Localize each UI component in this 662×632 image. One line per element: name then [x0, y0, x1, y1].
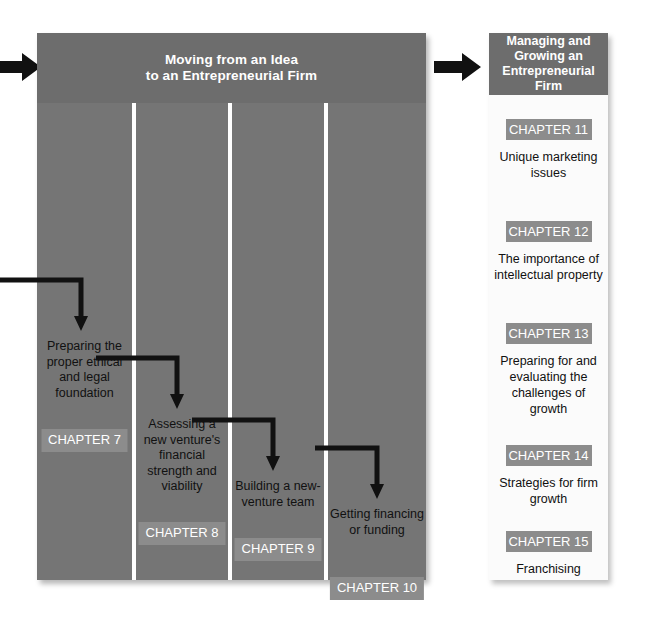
right-panel-item-13: CHAPTER 13 Preparing for and evaluating …: [489, 323, 608, 417]
right-panel-item-15: CHAPTER 15 Franchising: [489, 531, 608, 577]
arrow-right-icon-between: [434, 52, 482, 82]
column-3-chapter-badge: CHAPTER 9: [235, 538, 322, 561]
right-chapter-description-12: The importance of intellectual property: [493, 251, 605, 283]
column-chapter-10: Getting financing or funding CHAPTER 10: [328, 103, 426, 580]
arrow-right-icon-entry: [0, 52, 42, 82]
left-panel-title-line1: Moving from an Idea: [146, 52, 317, 68]
right-chapter-description-15: Franchising: [493, 561, 605, 577]
right-panel-managing-and-growing: Managing and Growing an Entrepreneurial …: [489, 33, 608, 580]
column-1-description: Preparing the proper ethical and legal f…: [37, 339, 132, 401]
elbow-arrow-icon-1: [0, 275, 110, 335]
left-panel-title-line2: to an Entrepreneurial Firm: [146, 68, 317, 84]
column-4-chapter-badge: CHAPTER 10: [330, 577, 424, 600]
right-chapter-description-11: Unique marketing issues: [493, 149, 605, 181]
right-chapter-description-13: Preparing for and evaluating the challen…: [493, 353, 605, 417]
right-chapter-description-14: Strategies for firm growth: [493, 475, 605, 507]
elbow-arrow-icon-4: [315, 443, 425, 503]
left-panel-moving-from-an-idea: Moving from an Idea to an Entrepreneuria…: [37, 33, 426, 580]
right-chapter-badge-12: CHAPTER 12: [506, 221, 592, 242]
column-1-chapter-badge: CHAPTER 7: [41, 429, 128, 452]
right-panel-item-14: CHAPTER 14 Strategies for firm growth: [489, 445, 608, 507]
right-panel-item-11: CHAPTER 11 Unique marketing issues: [489, 119, 608, 181]
right-panel-title-line3: Entrepreneurial Firm: [502, 64, 594, 93]
column-chapter-8: Assessing a new venture's financial stre…: [136, 103, 228, 580]
column-2-description: Assessing a new venture's financial stre…: [136, 417, 228, 495]
right-chapter-badge-14: CHAPTER 14: [506, 445, 592, 466]
right-chapter-badge-11: CHAPTER 11: [506, 119, 592, 140]
right-panel-title-line2: Growing an: [514, 49, 583, 63]
column-chapter-9: Building a new-venture team CHAPTER 9: [232, 103, 324, 580]
right-chapter-badge-15: CHAPTER 15: [506, 531, 592, 552]
column-3-description: Building a new-venture team: [232, 479, 324, 510]
right-panel-title: Managing and Growing an Entrepreneurial …: [489, 33, 608, 95]
right-chapter-badge-13: CHAPTER 13: [506, 323, 592, 344]
right-panel-title-line1: Managing and: [506, 34, 590, 48]
left-panel-title: Moving from an Idea to an Entrepreneuria…: [37, 33, 426, 103]
column-4-description: Getting financing or funding: [328, 507, 426, 538]
column-chapter-7: Preparing the proper ethical and legal f…: [37, 103, 132, 580]
right-panel-item-12: CHAPTER 12 The importance of intellectua…: [489, 221, 608, 283]
column-2-chapter-badge: CHAPTER 8: [139, 522, 226, 545]
